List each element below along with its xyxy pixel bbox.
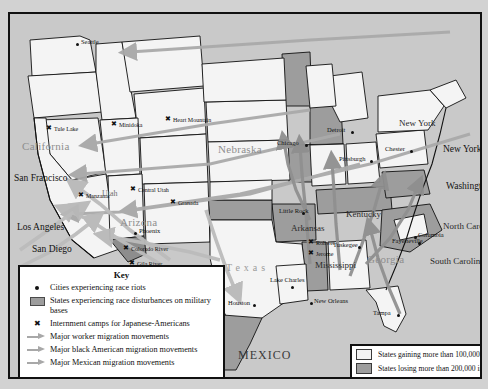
key-item: ✖Internment camps for Japanese-Americans xyxy=(24,319,219,329)
key-item: Major black American migration movements xyxy=(24,345,219,355)
key-item: Cities experiencing race riots xyxy=(24,283,219,293)
city-dot xyxy=(253,304,256,307)
internment-camp-label: Jerome xyxy=(316,251,333,257)
city-label: Houston xyxy=(228,300,232,307)
city-label: Fayetteville xyxy=(392,238,396,245)
internment-camp-marker-icon: ✖ xyxy=(46,125,52,132)
city-dot xyxy=(397,314,400,317)
city-label: Lake Charles xyxy=(270,277,274,284)
map-key: Key Cities experiencing race riotsStates… xyxy=(18,265,225,379)
city-dot xyxy=(410,150,413,153)
state-label: MEXICO xyxy=(238,349,291,361)
internment-camp-label: Rohwer xyxy=(316,240,335,246)
city-dot xyxy=(414,236,417,239)
internment-camp-marker-icon: ✖ xyxy=(111,121,117,128)
city-dot xyxy=(134,232,137,235)
internment-camp-marker-icon: ✖ xyxy=(170,199,176,206)
city-label: San Diego xyxy=(32,245,72,255)
city-label: Chicago xyxy=(277,140,281,147)
key-item-label: Internment camps for Japanese-Americans xyxy=(50,319,190,329)
race-riot-city-icon xyxy=(24,283,50,292)
city-dot xyxy=(291,286,294,289)
city-label: Pittsburgh xyxy=(339,156,343,163)
internment-camp-marker-icon: ✖ xyxy=(78,192,84,199)
key-items: Cities experiencing race riotsStates exp… xyxy=(24,283,219,367)
internment-camp-marker-icon: ✖ xyxy=(165,116,171,123)
map-frame: SeattleSan FranciscoLos AngelesSan Diego… xyxy=(8,12,482,379)
city-label: Little Rock xyxy=(279,208,283,215)
state-label: Arkansas xyxy=(291,224,325,233)
internment-camp-label: Heart Mountain xyxy=(173,117,211,123)
military-base-disturbance-swatch-icon xyxy=(24,296,50,306)
city-label: Seattle xyxy=(81,39,99,46)
city-label: New York xyxy=(443,145,482,155)
city-label: Tampa xyxy=(373,310,377,317)
migration-arrow-icon xyxy=(24,358,50,367)
migration-arrow-icon xyxy=(24,345,50,354)
city-dot xyxy=(76,43,79,46)
key-item: Major Mexican migration movements xyxy=(24,358,219,368)
internment-camp-marker-icon: ✖ xyxy=(123,245,129,252)
key-item-label: Major Mexican migration movements xyxy=(50,358,174,368)
migration-arrow-icon xyxy=(24,332,50,341)
state-label: Georgia xyxy=(367,254,404,265)
key-item-label: Cities experiencing race riots xyxy=(50,283,146,293)
state-label: California xyxy=(22,141,70,152)
key-item-label: Major black American migration movements xyxy=(50,345,197,355)
city-label: Detroit xyxy=(327,127,331,134)
key-title: Key xyxy=(24,270,219,280)
state-label: Mississippi xyxy=(315,261,356,270)
state-label: New York xyxy=(399,119,436,128)
city-label: Phoenix xyxy=(139,228,160,235)
key-item: Major worker migration movements xyxy=(24,332,219,342)
population-legend-items: States gaining more than 100,000 in popu… xyxy=(356,349,482,374)
state-label: North Carolina xyxy=(443,222,482,231)
city-dot xyxy=(358,246,361,249)
population-legend-label: States losing more than 200,000 in popul… xyxy=(378,364,482,373)
internment-camp-marker-icon: ✖ xyxy=(308,250,314,257)
internment-camp-label: Granada xyxy=(178,200,198,206)
key-item: States experiencing race disturbances on… xyxy=(24,296,219,315)
state-label: Nebraska xyxy=(218,144,262,155)
state-label: Utah xyxy=(102,190,118,198)
city-label: New Orleans xyxy=(314,298,348,305)
state-label: Texas xyxy=(226,263,269,273)
map-screenshot: SeattleSan FranciscoLos AngelesSan Diego… xyxy=(0,0,488,389)
internment-camp-icon: ✖ xyxy=(24,319,50,328)
population-legend-label: States gaining more than 100,000 in popu… xyxy=(378,350,482,359)
internment-camp-label: Minidoka xyxy=(119,122,142,128)
city-dot xyxy=(305,144,308,147)
city-label: Columbia xyxy=(418,232,444,239)
city-dot xyxy=(351,131,354,134)
internment-camp-label: Colorado River xyxy=(131,246,168,252)
internment-camp-marker-icon: ✖ xyxy=(130,186,136,193)
city-label: San Francisco xyxy=(14,174,68,184)
city-dot xyxy=(370,160,373,163)
key-item-label: Major worker migration movements xyxy=(50,332,169,342)
city-label: Los Angeles xyxy=(17,223,64,233)
internment-camp-label: Central Utah xyxy=(138,187,169,193)
population-swatch-icon xyxy=(356,349,372,360)
internment-camp-label: Tule Lake xyxy=(54,126,78,132)
population-legend: States gaining more than 100,000 in popu… xyxy=(350,344,482,379)
city-label: Chester xyxy=(385,146,389,153)
internment-camp-marker-icon: ✖ xyxy=(308,239,314,246)
population-legend-item: States losing more than 200,000 in popul… xyxy=(356,363,482,374)
state-label: South Carolina xyxy=(430,257,482,266)
state-label: Arizona xyxy=(120,217,158,228)
population-legend-item: States gaining more than 100,000 in popu… xyxy=(356,349,482,360)
city-dot xyxy=(310,302,313,305)
key-item-label: States experiencing race disturbances on… xyxy=(50,296,219,315)
state-label: Kentucky xyxy=(346,210,381,219)
population-swatch-icon xyxy=(356,363,372,374)
city-label: Washington xyxy=(446,182,482,192)
